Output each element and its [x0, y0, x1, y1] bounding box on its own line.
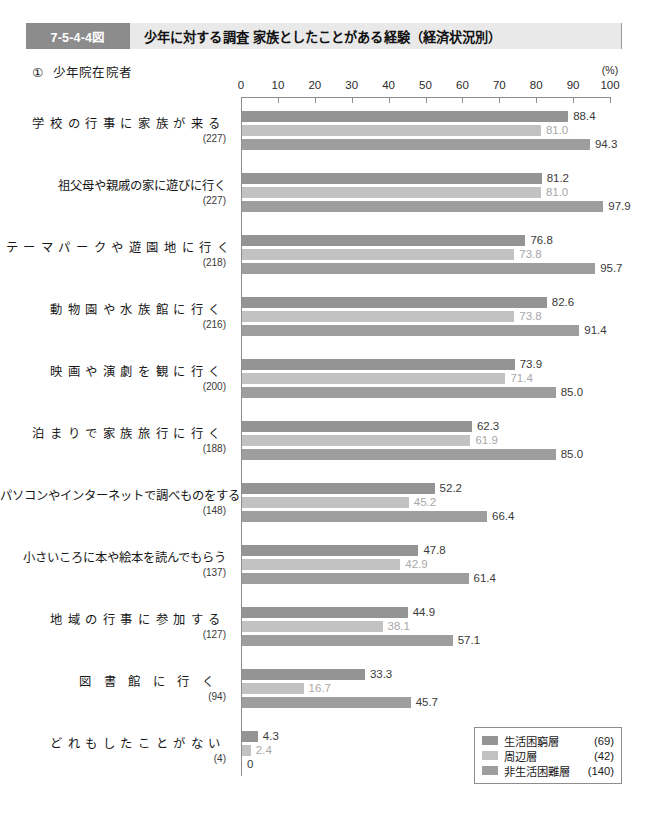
- x-axis-tick-label: 70: [493, 79, 506, 91]
- bar-value-label: 91.4: [584, 323, 606, 337]
- bar: [242, 697, 411, 708]
- bar-row: 61.4: [242, 573, 611, 584]
- category-label-text: 地域の行事に参加する: [0, 612, 226, 628]
- legend-item-label: 生活困窮層: [504, 733, 559, 749]
- category-label-text: パソコンやインターネットで調べものをする: [0, 488, 226, 504]
- bar: [242, 373, 505, 384]
- bar-value-label: 88.4: [573, 109, 595, 123]
- bar-value-label: 81.0: [546, 123, 568, 137]
- bar-row: 73.8: [242, 249, 611, 260]
- bar-group: 33.316.745.7: [241, 669, 610, 708]
- category-count: (137): [0, 567, 226, 579]
- bar-value-label: 4.3: [263, 729, 279, 743]
- category-label: 地域の行事に参加する(127): [0, 612, 232, 641]
- category-label: テーマパークや遊園地に行く(218): [0, 240, 232, 269]
- bar-row: 45.2: [242, 497, 611, 508]
- legend-item-count: (69): [594, 735, 614, 747]
- bar-value-label: 33.3: [370, 667, 392, 681]
- category-count: (4): [0, 753, 226, 765]
- category-label: 泊まりで家族旅行に行く(188): [0, 426, 232, 455]
- category-count: (227): [0, 195, 226, 207]
- bar-row: 33.3: [242, 669, 611, 680]
- bar-value-label: 82.6: [552, 295, 574, 309]
- bar: [242, 235, 525, 246]
- bar: [242, 249, 514, 260]
- legend-item-label: 非生活困難層: [504, 763, 570, 779]
- bar-row: 38.1: [242, 621, 611, 632]
- bar-row: 73.8: [242, 311, 611, 322]
- x-axis-tick: [536, 97, 537, 103]
- legend-item: 非生活困難層(140): [482, 763, 614, 778]
- bar: [242, 497, 409, 508]
- bar-value-label: 66.4: [492, 509, 514, 523]
- bar: [242, 669, 365, 680]
- legend-swatch-icon: [482, 766, 498, 775]
- bar-value-label: 62.3: [477, 419, 499, 433]
- bar: [242, 297, 547, 308]
- bar-row: 76.8: [242, 235, 611, 246]
- x-axis-tick: [573, 97, 574, 103]
- bar: [242, 635, 453, 646]
- category-count: (127): [0, 629, 226, 641]
- figure-title: 少年に対する調査 家族としたことがある経験（経済状況別）: [130, 23, 622, 49]
- bar-row: 85.0: [242, 449, 611, 460]
- bar-value-label: 81.2: [547, 171, 569, 185]
- bar: [242, 311, 514, 322]
- figure-header: 7-5-4-4図 少年に対する調査 家族としたことがある経験（経済状況別）: [26, 23, 622, 49]
- bar-value-label: 61.9: [475, 433, 497, 447]
- bar-group: 82.673.891.4: [241, 297, 610, 336]
- x-axis-tick-label: 0: [238, 79, 244, 91]
- bar-value-label: 45.7: [416, 695, 438, 709]
- bar-group: 47.842.961.4: [241, 545, 610, 584]
- bar-row: 94.3: [242, 139, 611, 150]
- bar: [242, 187, 541, 198]
- bar: [242, 483, 435, 494]
- x-axis-tick: [241, 97, 242, 103]
- legend-swatch-icon: [482, 736, 498, 745]
- bar-row: 47.8: [242, 545, 611, 556]
- bar-value-label: 73.8: [519, 309, 541, 323]
- x-axis-tick: [610, 97, 611, 103]
- category-label-text: どれもしたことがない: [0, 736, 226, 752]
- x-axis-tick-label: 30: [345, 79, 358, 91]
- x-axis-tick: [462, 97, 463, 103]
- bar-value-label: 2.4: [256, 743, 272, 757]
- bar-group: 62.361.985.0: [241, 421, 610, 460]
- bar-row: 97.9: [242, 201, 611, 212]
- bar-value-label: 38.1: [388, 619, 410, 633]
- bar-group: 73.971.485.0: [241, 359, 610, 398]
- bar-row: 62.3: [242, 421, 611, 432]
- bar: [242, 621, 383, 632]
- bar-group: 44.938.157.1: [241, 607, 610, 646]
- bar-row: 73.9: [242, 359, 611, 370]
- category-label-text: テーマパークや遊園地に行く: [0, 240, 226, 256]
- x-axis-tick: [352, 97, 353, 103]
- bar-value-label: 71.4: [510, 371, 532, 385]
- category-count: (227): [0, 133, 226, 145]
- bar-value-label: 52.2: [440, 481, 462, 495]
- x-axis-tick-label: 100: [600, 79, 619, 91]
- bar-value-label: 81.0: [546, 185, 568, 199]
- category-label: 映画や演劇を観に行く(200): [0, 364, 232, 393]
- bar-row: 52.2: [242, 483, 611, 494]
- bar: [242, 435, 470, 446]
- chart-legend: 生活困窮層(69)周辺層(42)非生活困難層(140): [474, 727, 622, 784]
- bar-group: 81.281.097.9: [241, 173, 610, 212]
- bar-value-label: 42.9: [405, 557, 427, 571]
- header-end-rule: [621, 23, 622, 49]
- bar-row: 45.7: [242, 697, 611, 708]
- x-axis-tick: [389, 97, 390, 103]
- bar: [242, 263, 595, 274]
- bar-row: 81.0: [242, 187, 611, 198]
- bar: [242, 573, 469, 584]
- bar-row: 44.9: [242, 607, 611, 618]
- bar-row: 88.4: [242, 111, 611, 122]
- bar-value-label: 45.2: [414, 495, 436, 509]
- bar: [242, 607, 408, 618]
- category-count: (216): [0, 319, 226, 331]
- category-count: (94): [0, 691, 226, 703]
- bar-value-label: 97.9: [608, 199, 630, 213]
- bar-row: 82.6: [242, 297, 611, 308]
- category-label-text: 映画や演劇を観に行く: [0, 364, 226, 380]
- category-label: 図書館に行く(94): [0, 674, 232, 703]
